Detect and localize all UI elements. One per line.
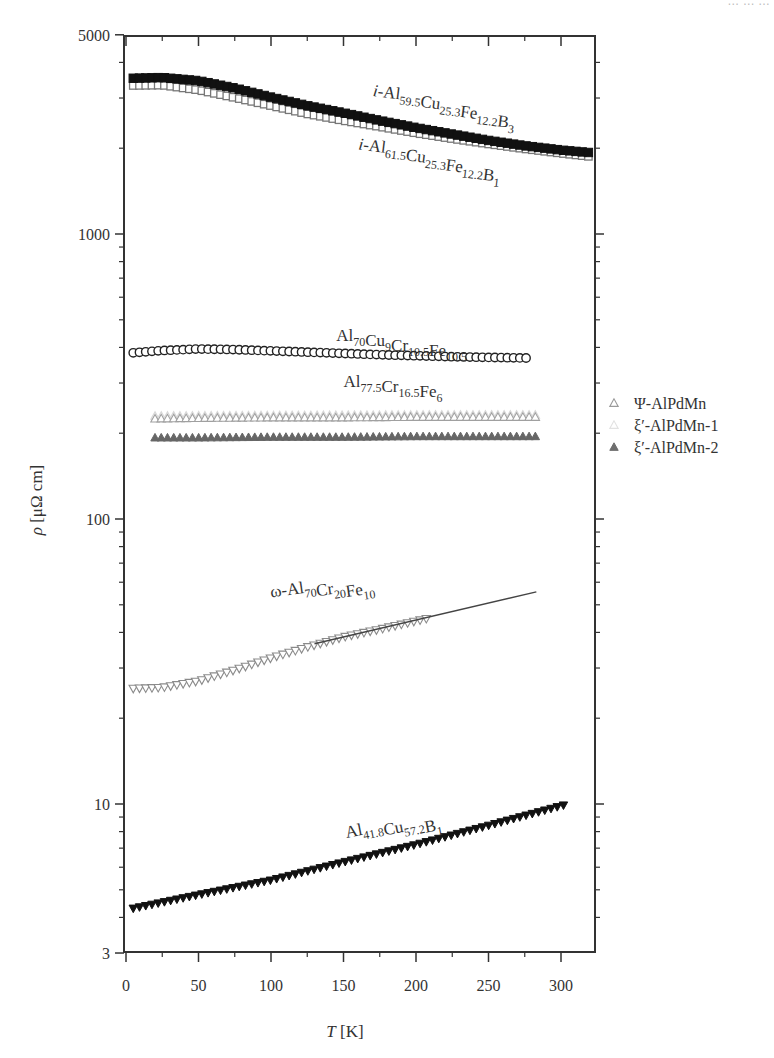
x-tick-label: 50	[191, 977, 207, 994]
y-tick-label: 10	[94, 796, 110, 813]
formula-part: Fe	[344, 580, 363, 601]
legend: Ψ-AlPdMnξ′-AlPdMn-1ξ′-AlPdMn-2	[610, 395, 719, 456]
annotation-crfe: Al77.5Cr16.5Fe6	[344, 372, 443, 405]
subscript: 6	[437, 391, 443, 405]
formula-part: ω-Al	[269, 578, 305, 602]
subscript: 77.5	[361, 381, 382, 395]
subscript: 16.5	[399, 386, 420, 400]
x-tick-label: 150	[332, 977, 356, 994]
subscript: 41.8	[362, 825, 385, 843]
legend-label: Ψ-AlPdMn	[634, 395, 706, 412]
series-al41-8cu57-2b1	[129, 802, 568, 913]
subscript: 10	[363, 587, 377, 603]
formula-part: Al	[336, 326, 353, 345]
formula-part: Cr	[382, 377, 399, 396]
subscript: 59.5	[399, 93, 422, 109]
axis-unit: [μΩ cm]	[27, 465, 46, 527]
formula-part: Cr	[391, 336, 408, 355]
subscript: 3	[507, 122, 515, 137]
y-tick-label: 100	[86, 511, 110, 528]
annotations-layer: i-Al59.5Cu25.3Fe12.2B3i-Al61.5Cu25.3Fe12…	[269, 81, 518, 856]
subscript: 25.3	[424, 157, 447, 173]
axis-symbol: ρ	[27, 527, 46, 536]
legend-marker-icon	[610, 443, 618, 451]
x-tick-label: 100	[259, 977, 283, 994]
y-tick-label: 3	[102, 945, 110, 962]
subscript: 12.2	[461, 166, 484, 182]
data-point	[522, 354, 530, 362]
y-tick-label: 5000	[78, 27, 110, 44]
subscript: 10.5	[408, 345, 429, 359]
subscript: 25.3	[439, 103, 462, 119]
subscript: 61.5	[384, 147, 407, 163]
subscript: 70	[353, 335, 365, 349]
series-alpdmn-2	[151, 432, 540, 441]
x-tick-label: 250	[477, 977, 501, 994]
formula-part: Fe	[429, 341, 446, 360]
formula-part: Cu	[365, 331, 385, 350]
data-point	[531, 432, 539, 440]
x-tick-label: 0	[122, 977, 130, 994]
subscript: 1	[493, 175, 501, 190]
formula-part: Fe	[420, 382, 437, 401]
subscript: 57.2	[403, 822, 426, 840]
legend-marker-icon	[610, 399, 618, 407]
formula-part: Al	[344, 372, 361, 391]
data-point	[584, 148, 592, 156]
x-tick-label: 200	[404, 977, 428, 994]
series-al70cu9cr10-5fe10-5	[129, 345, 530, 362]
axis-unit: [K]	[336, 1022, 364, 1041]
subscript: 10.5	[446, 350, 467, 364]
legend-label: ξ′-AlPdMn-2	[634, 439, 718, 456]
resistivity-chart: 05010015020025030031010010005000 i-Al59.…	[0, 0, 774, 1058]
legend-label: ξ′-AlPdMn-1	[634, 417, 718, 434]
legend-item: ξ′-AlPdMn-1	[610, 417, 719, 434]
axes-layer: 05010015020025030031010010005000	[78, 27, 604, 994]
subscript: 1	[436, 824, 445, 839]
y-axis-title: ρ [μΩ cm]	[27, 465, 46, 537]
series-layer	[129, 73, 593, 912]
subscript: 12.2	[476, 113, 499, 129]
x-tick-label: 300	[549, 977, 573, 994]
legend-item: Ψ-AlPdMn	[610, 395, 706, 412]
legend-marker-icon	[610, 421, 618, 429]
x-axis-title: T [K]	[326, 1022, 363, 1041]
formula-part: Al	[344, 820, 365, 842]
annotation-omega: ω-Al70Cr20Fe10	[269, 568, 376, 615]
formula-part: Cu	[382, 817, 406, 840]
formula-part: Cr	[315, 579, 335, 600]
legend-item: ξ′-AlPdMn-2	[610, 439, 719, 456]
y-tick-label: 1000	[78, 226, 110, 243]
